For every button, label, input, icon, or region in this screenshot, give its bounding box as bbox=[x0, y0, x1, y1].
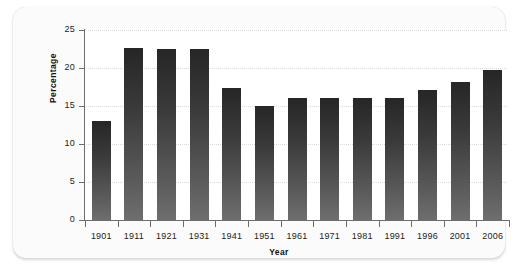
x-axis-line bbox=[84, 220, 510, 221]
bar-1901 bbox=[92, 121, 111, 220]
x-tick-2001 bbox=[444, 221, 445, 227]
x-tick-1996 bbox=[411, 221, 412, 227]
x-tick-1931 bbox=[183, 221, 184, 227]
y-tick-15 bbox=[79, 106, 85, 107]
x-tick-label-1911: 1911 bbox=[117, 231, 151, 241]
x-tick-label-1941: 1941 bbox=[215, 231, 249, 241]
y-tick-20 bbox=[79, 68, 85, 69]
bar-1971 bbox=[320, 98, 339, 220]
bar-1991 bbox=[385, 98, 404, 220]
y-tick-label-5: 5 bbox=[35, 176, 75, 186]
y-axis-title: Percentage bbox=[48, 89, 58, 103]
x-tick-label-1961: 1961 bbox=[280, 231, 314, 241]
x-tick-label-2001: 2001 bbox=[443, 231, 477, 241]
bar-1931 bbox=[190, 49, 209, 220]
chart-panel: 0510152025 Percentage 190119111921193119… bbox=[13, 7, 505, 258]
x-tick-1941 bbox=[215, 221, 216, 227]
y-axis-line bbox=[84, 29, 85, 221]
x-tick-label-1931: 1931 bbox=[182, 231, 216, 241]
x-tick-1921 bbox=[150, 221, 151, 227]
x-tick-1971 bbox=[313, 221, 314, 227]
x-tick-label-1996: 1996 bbox=[410, 231, 444, 241]
x-tick-end bbox=[509, 221, 510, 227]
x-tick-label-1981: 1981 bbox=[345, 231, 379, 241]
bar-1941 bbox=[222, 88, 241, 220]
y-tick-10 bbox=[79, 144, 85, 145]
x-tick-label-1991: 1991 bbox=[378, 231, 412, 241]
x-tick-1901 bbox=[85, 221, 86, 227]
bar-1911 bbox=[124, 48, 143, 220]
x-axis-title: Year bbox=[256, 247, 302, 257]
bar-1921 bbox=[157, 49, 176, 220]
x-tick-1951 bbox=[248, 221, 249, 227]
bar-1951 bbox=[255, 106, 274, 220]
x-tick-2006 bbox=[476, 221, 477, 227]
y-tick-5 bbox=[79, 182, 85, 183]
x-tick-label-1951: 1951 bbox=[247, 231, 281, 241]
bar-1996 bbox=[418, 90, 437, 220]
y-tick-label-10: 10 bbox=[35, 138, 75, 148]
x-tick-1981 bbox=[346, 221, 347, 227]
y-tick-label-0: 0 bbox=[35, 214, 75, 224]
bar-1981 bbox=[353, 98, 372, 220]
x-tick-label-1971: 1971 bbox=[313, 231, 347, 241]
bar-2006 bbox=[483, 70, 502, 220]
x-tick-1991 bbox=[379, 221, 380, 227]
y-tick-label-25: 25 bbox=[35, 24, 75, 34]
bars-container bbox=[85, 30, 509, 220]
bar-1961 bbox=[288, 98, 307, 220]
x-tick-label-1901: 1901 bbox=[84, 231, 118, 241]
x-tick-label-1921: 1921 bbox=[150, 231, 184, 241]
x-tick-1911 bbox=[118, 221, 119, 227]
bar-2001 bbox=[451, 82, 470, 220]
x-tick-label-2006: 2006 bbox=[476, 231, 510, 241]
x-tick-1961 bbox=[281, 221, 282, 227]
y-tick-25 bbox=[79, 30, 85, 31]
